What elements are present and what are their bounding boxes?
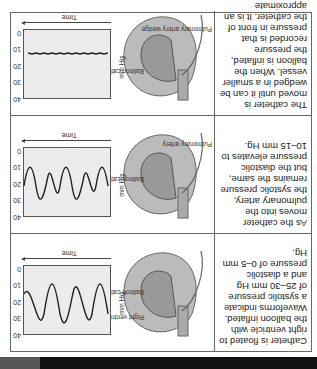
pressure-graph: mm Hg Time 403020100 bbox=[15, 253, 111, 335]
row-figure: Pulmonary artery wedge Balloon catheter … bbox=[11, 11, 214, 115]
row-pulmonary-artery: As the catheter moves into the pulmonary… bbox=[11, 115, 311, 233]
graph-plot bbox=[23, 147, 111, 217]
label-pulmonary-artery-wedge: Pulmonary artery wedge bbox=[142, 26, 212, 33]
catheter-table: Catheter is floated to right ventricle w… bbox=[10, 12, 312, 352]
y-tick-label: 10 bbox=[13, 47, 21, 54]
row-text: As the catheter moves into the pulmonary… bbox=[214, 116, 311, 233]
x-axis-label: Time bbox=[62, 14, 77, 21]
pressure-graph: mm Hg Time 403020100 bbox=[15, 17, 111, 99]
y-tick-label: 20 bbox=[13, 181, 21, 188]
y-tick-label: 20 bbox=[13, 63, 21, 70]
x-axis-arrow bbox=[23, 140, 111, 141]
row-text: Catheter is floated to right ventricle w… bbox=[214, 234, 311, 351]
row-pulmonary-wedge: The catheter is moved until it can be we… bbox=[11, 11, 311, 115]
y-tick-label: 10 bbox=[13, 165, 21, 172]
row-right-ventricle: Catheter is floated to right ventricle w… bbox=[11, 233, 311, 351]
y-tick-label: 0 bbox=[17, 148, 21, 155]
row-figure: Pulmonary artery Balloon catheter mm Hg … bbox=[11, 116, 214, 233]
y-tick-label: 40 bbox=[13, 96, 21, 103]
x-axis-label: Time bbox=[62, 250, 77, 257]
y-tick-label: 30 bbox=[13, 316, 21, 323]
row-figure: Right ventricle Balloon catheter mm Hg T… bbox=[11, 234, 214, 351]
heart-illustration-icon bbox=[116, 10, 206, 105]
row-text: The catheter is moved until it can be we… bbox=[214, 11, 311, 115]
label-pulmonary-artery: Pulmonary artery bbox=[163, 141, 213, 148]
pressure-graph: mm Hg Time 403020100 bbox=[15, 135, 111, 217]
y-axis-label: mm Hg bbox=[118, 174, 125, 197]
y-axis-label: mm Hg bbox=[118, 292, 125, 315]
y-tick-label: 20 bbox=[13, 299, 21, 306]
graph-plot bbox=[23, 29, 111, 99]
y-tick-label: 0 bbox=[17, 266, 21, 273]
top-band bbox=[0, 357, 317, 369]
y-tick-label: 10 bbox=[13, 283, 21, 290]
y-axis-label: mm Hg bbox=[118, 56, 125, 79]
x-axis-arrow bbox=[23, 258, 111, 259]
graph-plot bbox=[23, 265, 111, 335]
y-tick-label: 0 bbox=[17, 30, 21, 37]
x-axis-label: Time bbox=[62, 132, 77, 139]
y-tick-label: 40 bbox=[13, 332, 21, 339]
x-axis-arrow bbox=[23, 22, 111, 23]
y-tick-label: 30 bbox=[13, 198, 21, 205]
y-tick-label: 30 bbox=[13, 80, 21, 87]
page: Catheter is floated to right ventricle w… bbox=[0, 0, 317, 369]
band-accent bbox=[0, 357, 40, 369]
y-tick-label: 40 bbox=[13, 214, 21, 221]
